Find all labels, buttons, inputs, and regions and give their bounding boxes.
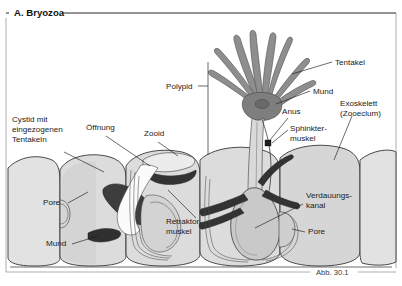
zooid-chamber-edge-right	[360, 150, 396, 265]
label-exoskelett: Exoskelett (Zooecium)	[340, 99, 381, 118]
label-pore-links: Pore	[43, 198, 61, 207]
bryozoa-diagram: A. Bryozoa Abb. 30.1 Cystid mit eingezog…	[0, 0, 402, 286]
label-polypid: Polypid	[166, 82, 193, 91]
label-cystid-line-1: Cystid mit	[12, 115, 48, 124]
label-pore-rechts: Pore	[308, 227, 326, 236]
figure-title: A. Bryozoa	[14, 7, 65, 18]
label-cystid-line-3: Tentakeln	[12, 135, 47, 144]
label-mund-rechts: Mund	[313, 87, 333, 96]
zooid-chamber-far-left	[8, 157, 60, 266]
label-exoskelett-line-1: Exoskelett	[340, 99, 378, 108]
label-tentakel: Tentakel	[335, 58, 365, 67]
label-anus: Anus	[282, 107, 300, 116]
label-retraktormuskel-line-2: muskel	[166, 227, 192, 236]
label-sphinkter-line-2: muskel	[290, 134, 316, 143]
mouth-opening	[255, 100, 269, 109]
label-cystid-line-2: eingezogenen	[12, 125, 63, 134]
label-exoskelett-line-2: (Zooecium)	[340, 109, 381, 118]
left-chamber-shading	[62, 162, 96, 264]
sphincter-muscle	[265, 140, 271, 146]
figure-caption: Abb. 30.1	[316, 268, 349, 277]
label-mund-links: Mund	[46, 239, 66, 248]
label-retraktormuskel-line-1: Retraktor-	[166, 217, 202, 226]
label-sphinkter-line-1: Sphinkter-	[290, 124, 327, 133]
bryozoa-figure: A. Bryozoa Abb. 30.1 Cystid mit eingezog…	[0, 0, 402, 286]
label-zooid: Zooid	[144, 129, 164, 138]
label-verdauungskanal-line-1: Verdauungs-	[306, 191, 352, 200]
label-verdauungskanal-line-2: kanal	[306, 201, 326, 210]
label-oeffnung: Öffnung	[86, 123, 115, 132]
